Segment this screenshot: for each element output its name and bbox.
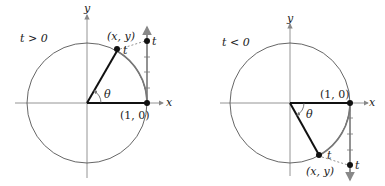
panel-negative-t: t < 0 (x, y) (1, 0) θ t t x y bbox=[220, 12, 376, 180]
condition-label: t > 0 bbox=[20, 32, 48, 45]
x-axis-label: x bbox=[166, 96, 173, 109]
wrapped-arc bbox=[320, 103, 350, 155]
panel-positive-t: t > 0 (x, y) (1, 0) θ t t x y bbox=[15, 2, 173, 178]
unit-circle-diagram: t > 0 (x, y) (1, 0) θ t t x y t < 0 (x, … bbox=[0, 0, 385, 186]
point-xy-label: (x, y) bbox=[306, 165, 334, 178]
wrapped-arc bbox=[117, 51, 147, 103]
point-t-on-line bbox=[347, 162, 353, 168]
line-t-label: t bbox=[152, 35, 157, 48]
angle-arc bbox=[94, 91, 101, 103]
terminal-side bbox=[87, 51, 117, 103]
x-axis-label: x bbox=[369, 96, 376, 109]
arc-t-label: t bbox=[327, 149, 332, 162]
y-axis-label: y bbox=[83, 2, 91, 15]
point-1-0 bbox=[144, 100, 150, 106]
theta-label: θ bbox=[104, 88, 111, 101]
dashed-connector bbox=[322, 157, 348, 165]
theta-label: θ bbox=[306, 108, 313, 121]
point-x-y bbox=[316, 152, 322, 158]
point-x-y bbox=[114, 46, 120, 52]
arc-t-label: t bbox=[123, 44, 128, 57]
condition-label: t < 0 bbox=[222, 36, 250, 49]
y-axis-label: y bbox=[286, 12, 294, 25]
angle-arc bbox=[297, 103, 304, 115]
point-1-0-label: (1, 0) bbox=[320, 88, 350, 101]
terminal-side bbox=[290, 103, 319, 155]
point-t-on-line bbox=[144, 38, 150, 44]
point-xy-label: (x, y) bbox=[107, 30, 135, 43]
line-t-label: t bbox=[355, 159, 360, 172]
point-1-0-label: (1, 0) bbox=[120, 109, 150, 122]
